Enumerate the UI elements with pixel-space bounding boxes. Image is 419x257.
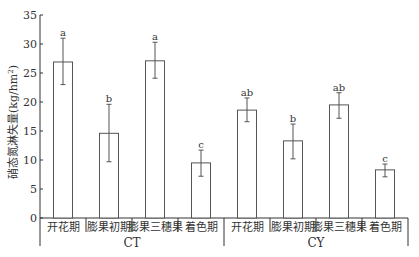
y-axis: 05101520253035 xyxy=(23,9,43,246)
y-tick-label: 5 xyxy=(30,183,37,196)
x-category-label: 膨果初期 xyxy=(271,220,315,234)
y-axis-title: 硝态氮淋失量(kg/hm2) xyxy=(6,65,20,179)
y-tick-label: 30 xyxy=(23,38,37,51)
significance-label: ab xyxy=(333,82,345,93)
bars: abacabbabc xyxy=(54,27,395,218)
significance-label: a xyxy=(60,27,66,38)
significance-label: b xyxy=(290,113,296,124)
y-tick-label: 10 xyxy=(23,154,37,167)
x-axis: 开花期膨果初期膨果三穗果着色期CT开花期膨果初期膨果三穗果着色期CY xyxy=(40,218,408,250)
bar-chart: 硝态氮淋失量(kg/hm2) 05101520253035 开花期膨果初期膨果三… xyxy=(0,0,419,257)
x-category-label: 膨果三穗果 xyxy=(128,220,183,234)
bar xyxy=(54,62,73,218)
bar xyxy=(146,61,165,218)
x-category-label: 膨果三穗果 xyxy=(312,220,367,234)
bar xyxy=(238,110,257,218)
y-tick-label: 15 xyxy=(23,125,37,138)
group-label: CT xyxy=(123,236,140,250)
significance-label: c xyxy=(198,139,204,150)
y-tick-label: 25 xyxy=(23,67,37,80)
y-tick-label: 35 xyxy=(23,9,37,22)
significance-label: c xyxy=(382,153,388,164)
x-category-label: 着色期 xyxy=(185,220,218,234)
x-category-label: 膨果初期 xyxy=(87,220,131,234)
significance-label: b xyxy=(106,93,112,104)
y-tick-label: 20 xyxy=(23,96,37,109)
x-category-label: 着色期 xyxy=(369,220,402,234)
x-category-label: 开花期 xyxy=(231,221,264,234)
y-axis-label: 硝态氮淋失量(kg/hm2) xyxy=(6,65,20,179)
significance-label: a xyxy=(152,31,158,42)
y-tick-label: 0 xyxy=(30,212,37,225)
bar xyxy=(330,105,349,218)
group-label: CY xyxy=(307,236,325,250)
significance-label: ab xyxy=(241,87,253,98)
x-category-label: 开花期 xyxy=(47,221,80,234)
